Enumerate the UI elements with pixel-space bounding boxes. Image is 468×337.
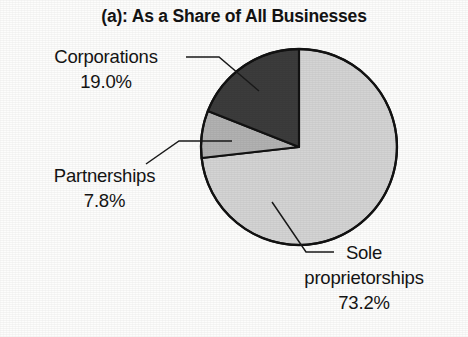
slice-label-corporations-value: 19.0% (26, 69, 186, 94)
pie-chart-figure: (a): As a Share of All Businesses Corpor… (0, 0, 468, 337)
chart-title: (a): As a Share of All Businesses (0, 6, 468, 27)
slice-label-corporations: Corporations 19.0% (26, 44, 186, 94)
slice-label-sole-name-line1: Sole (268, 240, 460, 265)
slice-label-sole-proprietorships: Sole proprietorships 73.2% (268, 240, 460, 315)
slice-label-sole-name-line2: proprietorships (268, 265, 460, 290)
slice-label-partnerships-name: Partnerships (22, 163, 187, 188)
slice-label-partnerships-value: 7.8% (22, 188, 187, 213)
slice-label-corporations-name: Corporations (26, 44, 186, 69)
slice-label-partnerships: Partnerships 7.8% (22, 163, 187, 213)
slice-label-sole-value: 73.2% (268, 290, 460, 315)
